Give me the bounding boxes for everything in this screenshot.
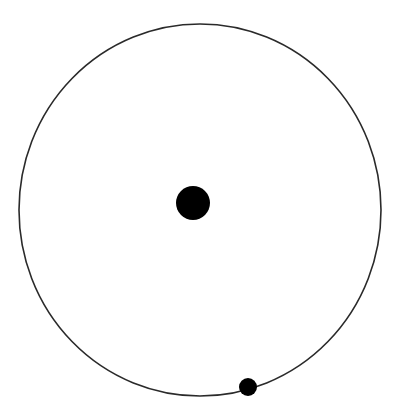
orbit-diagram xyxy=(0,0,398,416)
central-body xyxy=(176,186,210,220)
orbiting-body xyxy=(239,378,257,396)
